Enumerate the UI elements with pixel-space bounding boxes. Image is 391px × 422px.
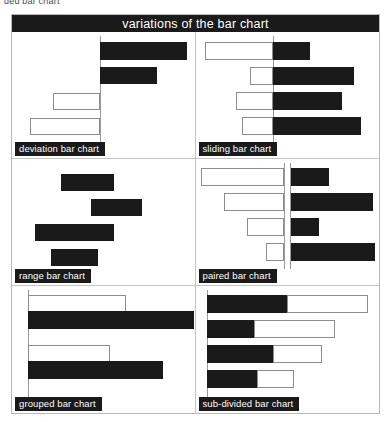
grouped-bar-1a [28, 295, 126, 312]
paired-bar-2-left [224, 193, 284, 211]
deviation-bar-1 [100, 42, 187, 60]
grouped-bar-2a [28, 345, 110, 362]
figure-title: variations of the bar chart [122, 17, 268, 31]
deviation-plot-area [16, 36, 191, 142]
panel-label-sliding: sliding bar chart [199, 142, 278, 156]
sliding-bar-1-right [273, 42, 310, 60]
paired-bar-2-right [291, 193, 373, 211]
sliding-bar-3-left [236, 92, 273, 110]
panel-label-deviation: deviation bar chart [15, 142, 105, 156]
figure-title-bar: variations of the bar chart [12, 15, 379, 32]
paired-bar-3-left [247, 218, 284, 236]
paired-axis-line-left [284, 163, 285, 269]
sliding-bar-4-right [273, 117, 361, 135]
sub-divided-bar-3-seg-b [273, 345, 322, 363]
paired-plot-area [200, 163, 376, 269]
sub-divided-bar-4-seg-b [257, 370, 294, 388]
sub-divided-bar-2-seg-b [254, 320, 335, 338]
grouped-bar-2b [28, 361, 162, 379]
bar-chart-variations-figure: variations of the bar chart deviation ba… [11, 14, 380, 414]
range-bar-2 [91, 199, 142, 216]
panel-deviation-bar-chart: deviation bar chart [12, 32, 196, 159]
sub-divided-bar-3-seg-a [207, 345, 274, 363]
paired-bar-4-right [291, 243, 375, 261]
panel-sliding-bar-chart: sliding bar chart [196, 32, 380, 159]
sub-divided-bar-4-seg-a [207, 370, 258, 388]
sub-divided-bar-2-seg-a [207, 320, 254, 338]
range-plot-area [16, 163, 191, 269]
deviation-bar-4 [30, 118, 100, 135]
deviation-bar-2 [100, 67, 158, 84]
cut-off-caption: ded bar chart [4, 0, 60, 5]
range-bar-1 [61, 174, 113, 191]
panel-grouped-bar-chart: grouped bar chart [12, 286, 196, 413]
sliding-bar-2-left [250, 67, 273, 85]
panel-label-range: range bar chart [15, 269, 91, 283]
range-bar-3 [35, 224, 114, 241]
panel-grid: deviation bar chart sliding bar chart [12, 32, 379, 413]
range-bar-4 [51, 249, 98, 266]
sliding-bar-3-right [273, 92, 341, 110]
sub-divided-bar-1-seg-a [207, 295, 288, 313]
panel-sub-divided-bar-chart: sub-divided bar chart [196, 286, 380, 413]
deviation-bar-3 [53, 93, 100, 110]
paired-bar-1-right [291, 168, 330, 186]
sliding-bar-2-right [273, 67, 354, 85]
sliding-bar-1-left [205, 42, 273, 60]
panel-paired-bar-chart: paired bar chart [196, 159, 380, 286]
panel-label-sub-divided: sub-divided bar chart [199, 397, 300, 411]
sub-divided-plot-area [200, 290, 376, 397]
panel-label-grouped: grouped bar chart [15, 397, 102, 411]
sub-divided-bar-1-seg-b [287, 295, 368, 313]
grouped-plot-area [16, 290, 191, 397]
panel-range-bar-chart: range bar chart [12, 159, 196, 286]
paired-bar-4-left [266, 243, 284, 261]
grouped-bar-1b [28, 311, 194, 329]
sliding-plot-area [200, 36, 376, 142]
paired-bar-1-left [201, 168, 283, 186]
paired-bar-3-right [291, 218, 319, 236]
sliding-bar-4-left [242, 117, 274, 135]
panel-label-paired: paired bar chart [199, 269, 277, 283]
